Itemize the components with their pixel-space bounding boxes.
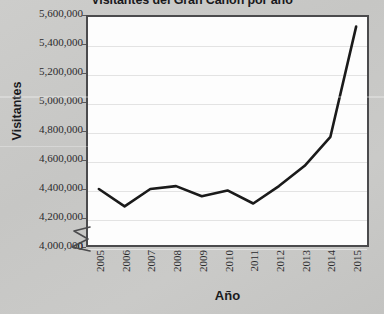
data-series-line bbox=[0, 0, 384, 314]
line-chart: Visitantes del Gran Cañón por año Visita… bbox=[0, 0, 384, 314]
